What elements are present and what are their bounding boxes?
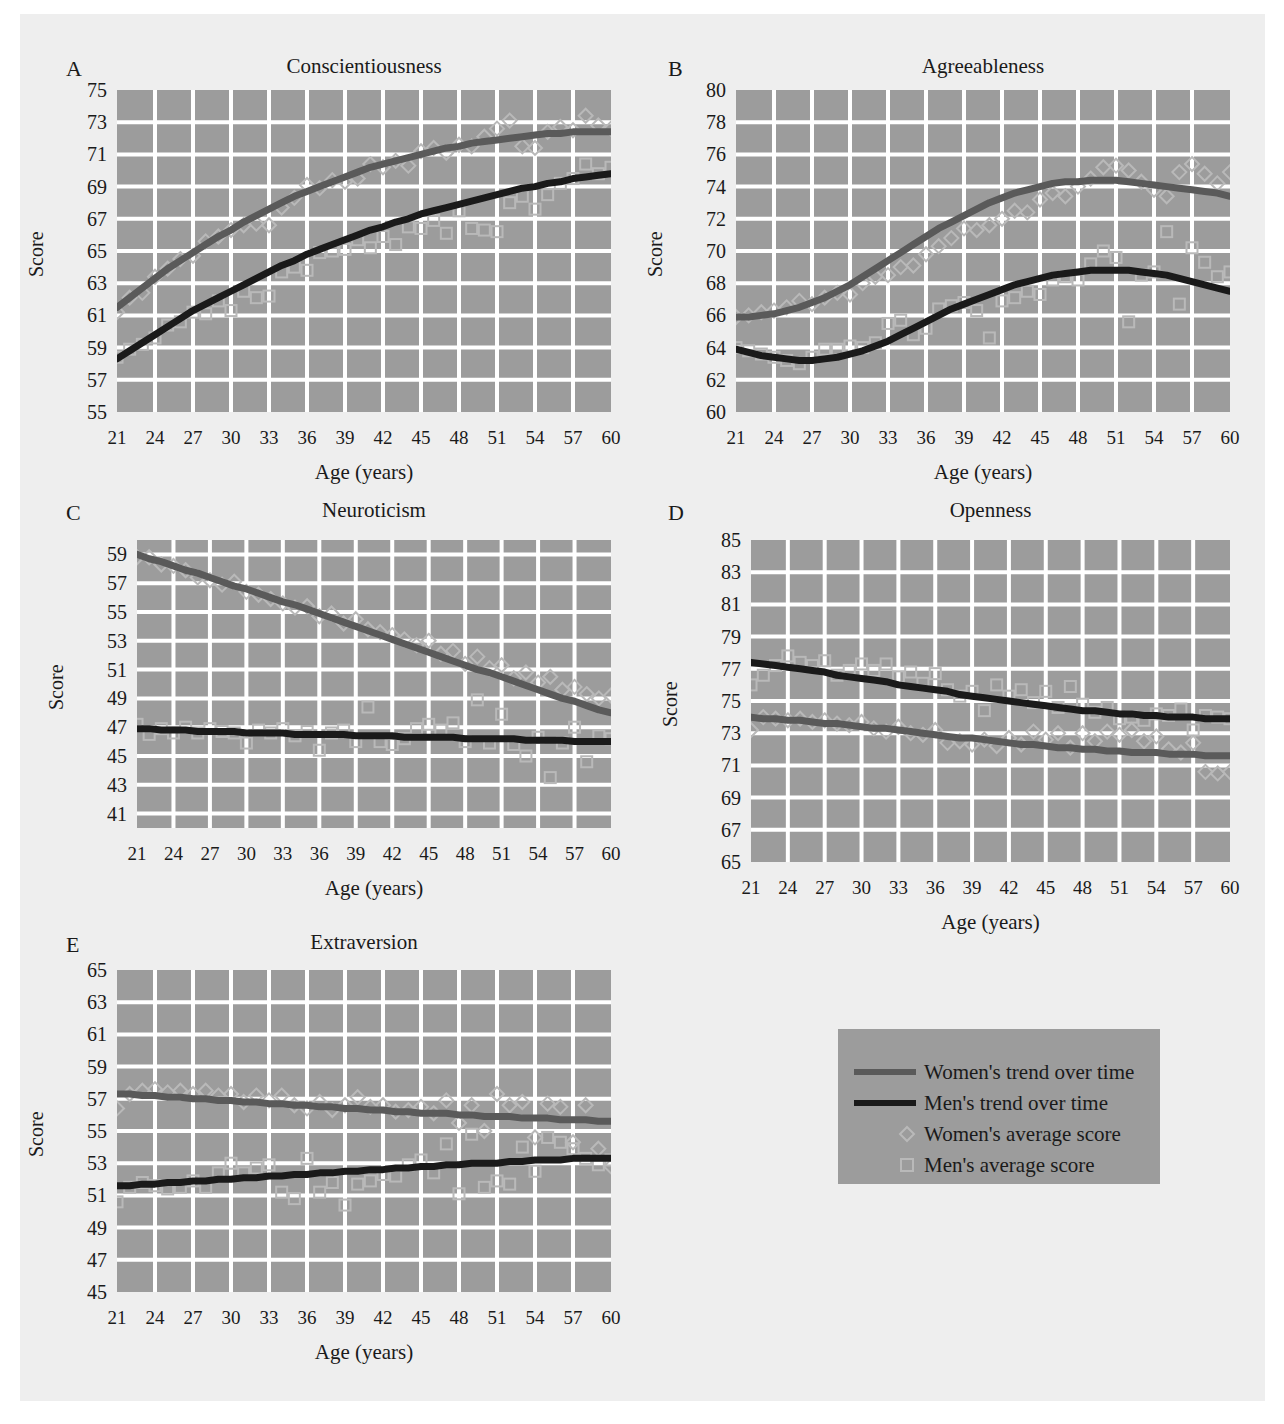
legend-item-women-trend-line: Women's trend over time: [838, 1057, 1134, 1087]
x-tick-label: 42: [374, 1308, 393, 1327]
men-average-marker: [327, 1177, 338, 1188]
x-tick-label: 48: [450, 1308, 469, 1327]
legend-label: Men's trend over time: [924, 1093, 1108, 1114]
legend-swatch-men-marker: [838, 1156, 924, 1174]
y-tick-label: 53: [59, 1153, 107, 1173]
women-average-marker: [117, 1101, 124, 1115]
x-axis-title: Age (years): [315, 1340, 414, 1365]
x-tick-label: 54: [526, 1308, 545, 1327]
y-tick-label: 55: [59, 1121, 107, 1141]
women-average-marker: [591, 1142, 605, 1156]
men-average-marker: [555, 1137, 566, 1148]
legend-item-women-marker: Women's average score: [838, 1119, 1121, 1149]
figure-legend: Women's trend over timeMen's trend over …: [838, 1029, 1160, 1184]
square-icon: [898, 1156, 916, 1174]
women-average-marker: [553, 1100, 567, 1114]
x-tick-label: 51: [488, 1308, 507, 1327]
legend-item-men-marker: Men's average score: [838, 1150, 1095, 1180]
men-average-marker: [365, 1175, 376, 1186]
x-tick-label: 36: [298, 1308, 317, 1327]
men-trend-line-swatch-icon: [854, 1100, 916, 1106]
plot-area: [117, 970, 611, 1292]
x-tick-label: 57: [564, 1308, 583, 1327]
men-average-marker: [352, 1179, 363, 1190]
x-tick-label: 60: [602, 1308, 621, 1327]
legend-item-men-trend-line: Men's trend over time: [838, 1088, 1108, 1118]
panel-letter: E: [66, 934, 79, 956]
y-tick-label: 47: [59, 1250, 107, 1270]
men-average-marker: [117, 1196, 123, 1207]
panel-title: Extraversion: [310, 932, 417, 953]
legend-swatch-women-trend-line: [838, 1069, 924, 1075]
women-trend-line-swatch-icon: [854, 1069, 916, 1075]
legend-swatch-men-trend-line: [838, 1100, 924, 1106]
x-tick-label: 21: [108, 1308, 127, 1327]
men-average-marker: [479, 1182, 490, 1193]
y-axis-title: Score: [25, 1111, 48, 1157]
x-tick-label: 27: [184, 1308, 203, 1327]
men-average-marker: [441, 1138, 452, 1149]
y-tick-label: 61: [59, 1024, 107, 1044]
legend-swatch-women-marker: [838, 1125, 924, 1143]
panel-e: EExtraversion454749515355575961636521242…: [20, 14, 1265, 1401]
y-tick-label: 65: [59, 960, 107, 980]
x-tick-label: 45: [412, 1308, 431, 1327]
y-tick-label: 49: [59, 1218, 107, 1238]
diamond-icon: [898, 1125, 916, 1143]
legend-label: Women's average score: [924, 1124, 1121, 1145]
y-tick-label: 57: [59, 1089, 107, 1109]
men-average-marker: [517, 1142, 528, 1153]
x-tick-label: 24: [146, 1308, 165, 1327]
figure-root: AConscientiousness5557596163656769717375…: [20, 14, 1265, 1401]
x-tick-label: 30: [222, 1308, 241, 1327]
y-tick-label: 59: [59, 1057, 107, 1077]
legend-label: Men's average score: [924, 1155, 1095, 1176]
men-average-marker: [542, 1132, 553, 1143]
men-average-marker: [504, 1179, 515, 1190]
y-tick-label: 63: [59, 992, 107, 1012]
x-tick-label: 39: [336, 1308, 355, 1327]
x-tick-label: 33: [260, 1308, 279, 1327]
y-tick-label: 51: [59, 1185, 107, 1205]
men-average-marker: [390, 1171, 401, 1182]
legend-label: Women's trend over time: [924, 1062, 1134, 1083]
y-tick-label: 45: [59, 1282, 107, 1302]
